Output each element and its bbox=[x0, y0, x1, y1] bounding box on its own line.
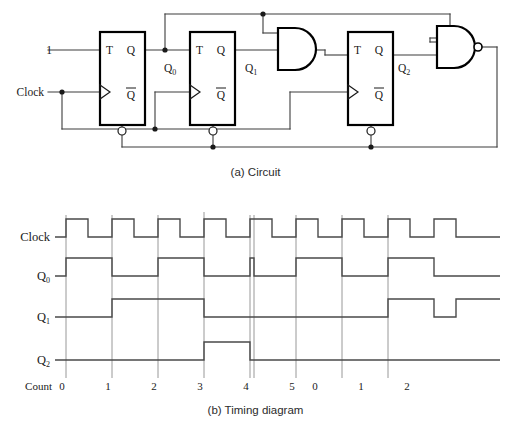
timing-diagram: Clock Q0 Q1 Q2 Count 0 1 2 3 4 5 0 1 2 bbox=[0, 0, 511, 438]
waveform-q0 bbox=[55, 258, 500, 276]
count-tick-0: 0 bbox=[59, 380, 65, 392]
figure-container: T Q Q T Q Q T Q Q bbox=[0, 0, 511, 438]
waveform-q2 bbox=[55, 342, 500, 360]
count-axis-label: Count bbox=[25, 380, 52, 392]
timing-row-label-q1: Q1 bbox=[37, 310, 50, 326]
count-tick-6: 0 bbox=[312, 380, 318, 392]
timing-waveforms bbox=[55, 219, 500, 360]
caption-timing: (b) Timing diagram bbox=[0, 404, 511, 416]
count-tick-7: 1 bbox=[358, 380, 364, 392]
count-tick-3: 3 bbox=[197, 380, 203, 392]
count-tick-4: 4 bbox=[243, 380, 249, 392]
timing-row-label-q0: Q0 bbox=[37, 269, 50, 285]
count-tick-5: 5 bbox=[289, 380, 295, 392]
timing-row-label-q2: Q2 bbox=[37, 353, 50, 369]
waveform-clock bbox=[55, 219, 500, 237]
waveform-q1 bbox=[55, 299, 500, 317]
count-tick-1: 1 bbox=[105, 380, 111, 392]
count-tick-2: 2 bbox=[151, 380, 157, 392]
count-tick-8: 2 bbox=[404, 380, 410, 392]
timing-row-label-clock: Clock bbox=[20, 230, 51, 244]
